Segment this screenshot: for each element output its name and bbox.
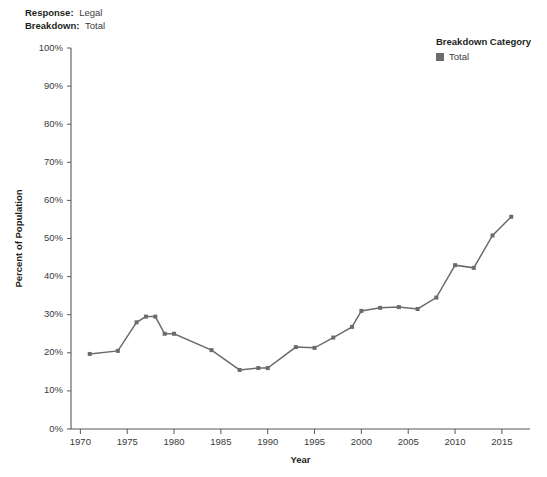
data-point-marker[interactable] (313, 346, 317, 350)
y-tick-label: 70% (44, 156, 64, 167)
data-point-marker[interactable] (153, 315, 157, 319)
plot-area: 0%10%20%30%40%50%60%70%80%90%100%1970197… (0, 0, 547, 477)
x-tick-label: 1985 (210, 436, 231, 447)
x-axis-title: Year (290, 454, 310, 465)
data-point-marker[interactable] (350, 325, 354, 329)
y-tick-label: 50% (44, 232, 64, 243)
data-point-marker[interactable] (331, 336, 335, 340)
y-tick-label: 80% (44, 118, 64, 129)
data-point-marker[interactable] (266, 366, 270, 370)
data-point-marker[interactable] (491, 233, 495, 237)
y-tick-label: 20% (44, 346, 64, 357)
x-tick-label: 2005 (398, 436, 419, 447)
x-tick-label: 1970 (70, 436, 91, 447)
y-tick-label: 60% (44, 194, 64, 205)
data-point-marker[interactable] (434, 296, 438, 300)
x-tick-label: 1980 (163, 436, 184, 447)
x-tick-label: 2000 (351, 436, 372, 447)
y-tick-label: 10% (44, 384, 64, 395)
x-tick-label: 1990 (257, 436, 278, 447)
axis-lines (71, 48, 530, 429)
data-point-marker[interactable] (453, 263, 457, 267)
y-tick-label: 90% (44, 80, 64, 91)
x-tick-label: 2010 (444, 436, 465, 447)
x-tick-label: 1995 (304, 436, 325, 447)
y-tick-label: 0% (49, 423, 63, 434)
data-point-marker[interactable] (144, 315, 148, 319)
data-point-marker[interactable] (472, 266, 476, 270)
data-point-marker[interactable] (397, 305, 401, 309)
data-point-marker[interactable] (116, 349, 120, 353)
series-line (90, 217, 512, 370)
data-point-marker[interactable] (509, 215, 513, 219)
data-point-marker[interactable] (294, 345, 298, 349)
data-point-marker[interactable] (359, 309, 363, 313)
data-point-marker[interactable] (135, 320, 139, 324)
chart-page: Response: Legal Breakdown: Total Breakdo… (0, 0, 547, 477)
x-tick-label: 2015 (491, 436, 512, 447)
data-point-marker[interactable] (256, 366, 260, 370)
y-axis: 0%10%20%30%40%50%60%70%80%90%100% (39, 42, 71, 434)
y-axis-title: Percent of Population (13, 189, 24, 287)
data-point-marker[interactable] (210, 348, 214, 352)
x-tick-label: 1975 (117, 436, 138, 447)
data-point-marker[interactable] (378, 306, 382, 310)
y-tick-label: 30% (44, 308, 64, 319)
data-point-marker[interactable] (416, 307, 420, 311)
data-point-marker[interactable] (172, 332, 176, 336)
x-axis: 1970197519801985199019952000200520102015 (70, 429, 513, 447)
data-point-marker[interactable] (238, 368, 242, 372)
data-series (88, 215, 514, 372)
line-chart: 0%10%20%30%40%50%60%70%80%90%100%1970197… (0, 0, 547, 477)
y-tick-label: 40% (44, 270, 64, 281)
data-point-marker[interactable] (163, 332, 167, 336)
data-point-marker[interactable] (88, 352, 92, 356)
y-tick-label: 100% (39, 42, 64, 53)
